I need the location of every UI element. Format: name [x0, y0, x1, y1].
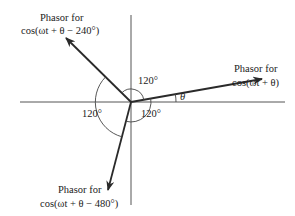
angle-arc-left	[95, 77, 122, 137]
phasor-minus-240-label-line2: cos(ωt + θ − 240°)	[21, 25, 100, 37]
phasor-minus-480-label-line1: Phasor for	[58, 184, 102, 195]
angle-label-bottom-right: 120°	[141, 108, 161, 119]
phasor-theta-label-line1: Phasor for	[234, 63, 278, 74]
phasor-diagram: Phasor for cos(ωt + θ) Phasor for cos(ωt…	[0, 0, 295, 216]
phasor-minus-480-label-line2: cos(ωt + θ − 480°)	[40, 198, 119, 210]
phasor-minus-240-arrow	[66, 38, 131, 102]
theta-angle-label: θ	[180, 91, 185, 102]
angle-label-left: 120°	[82, 108, 102, 119]
angle-arc-top	[122, 89, 144, 100]
theta-angle-arc	[175, 94, 176, 102]
phasor-minus-240-label-line1: Phasor for	[40, 12, 84, 23]
phasor-theta-label-line2: cos(ωt + θ)	[232, 77, 280, 89]
angle-label-top: 120°	[138, 75, 158, 86]
phasor-minus-480-arrow	[108, 102, 131, 190]
